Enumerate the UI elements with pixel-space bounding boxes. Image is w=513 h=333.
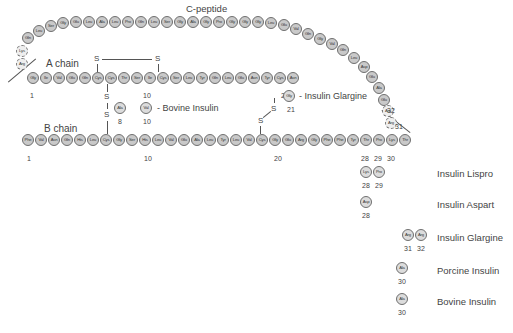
b-chain-position-number: 10: [144, 155, 152, 162]
b-chain-position-number: 20: [274, 155, 282, 162]
b-chain-residue: Phe: [334, 134, 346, 146]
a-chain-residue: Asn: [248, 72, 260, 84]
b-chain-position-number: 30: [387, 155, 395, 162]
b-chain-residue: Gly: [308, 134, 320, 146]
c-peptide-residue: Gly: [200, 16, 212, 28]
variant-residue: Val: [140, 102, 152, 114]
c-peptide-residue: Ser: [161, 16, 173, 28]
a-chain-residue: Gln: [79, 72, 91, 84]
b-chain-residue: Val: [165, 134, 177, 146]
b-chain-residue: Pro: [373, 134, 385, 146]
variant-residue: Arg: [415, 229, 427, 241]
c-peptide-residue: Leu: [33, 25, 45, 37]
a-chain-residue: Leu: [222, 72, 234, 84]
a-chain-residue: Cys: [105, 72, 117, 84]
c-peptide-residue: Gln: [337, 44, 349, 56]
b-chain-residue: Leu: [152, 134, 164, 146]
c-peptide-residue: Val: [290, 23, 302, 35]
b-chain-residue: Lys: [386, 134, 398, 146]
b-chain-residue: Thr: [360, 134, 372, 146]
c-peptide-residue: Leu: [109, 16, 121, 28]
a-chain-residue: Tyr: [196, 72, 208, 84]
a-chain-residue: Ile: [40, 72, 52, 84]
variant-name-label: Insulin Lispro: [437, 168, 493, 179]
a-chain-residue: Ser: [131, 72, 143, 84]
disulfide-bridge-intra-a: [102, 59, 152, 60]
variant-position-number: 10: [143, 118, 151, 125]
a-chain-position-number: 10: [143, 92, 151, 99]
a-chain-residue: Cys: [157, 72, 169, 84]
b-chain-residue: His: [74, 134, 86, 146]
a-chain-residue: Thr: [118, 72, 130, 84]
c-peptide-residue: Ser: [45, 20, 57, 32]
b-chain-residue: Val: [243, 134, 255, 146]
variant-residue: Gly: [283, 90, 295, 102]
a-chain-residue: Gln: [209, 72, 221, 84]
variant-position-number: 28: [362, 182, 370, 189]
bond-b7: [107, 121, 108, 134]
variant-residue: Lys: [360, 166, 372, 178]
bond-a20: [274, 98, 275, 103]
a-chain-residue: Cys: [274, 72, 286, 84]
b-chain-residue: Glu: [282, 134, 294, 146]
a-chain-residue: Val: [53, 72, 65, 84]
b-chain-residue: Gly: [269, 134, 281, 146]
b-chain-residue: Ser: [126, 134, 138, 146]
c-peptide-position-number: 31: [395, 123, 403, 130]
disulfide-s-b7: S: [104, 110, 109, 119]
c-peptide-residue: Gly: [226, 16, 238, 28]
variant-name-label: Insulin Aspart: [437, 199, 494, 210]
c-peptide-residue: Gln: [22, 32, 34, 44]
a-chain-residue: Glu: [66, 72, 78, 84]
variant-position-number: 30: [398, 278, 406, 285]
variant-residue: Ala: [114, 102, 126, 114]
a-chain-residue: Cys: [92, 72, 104, 84]
a-chain-residue: Asn: [287, 72, 299, 84]
insulin-structure-diagram: C-peptide A chain B chain - Bovine Insul…: [0, 0, 513, 333]
variant-position-number: 29: [375, 182, 383, 189]
b-chain-residue: Tyr: [217, 134, 229, 146]
b-chain-residue: Cys: [100, 134, 112, 146]
c-peptide-residue: Gly: [174, 16, 186, 28]
b-chain-residue: Gly: [113, 134, 125, 146]
a-chain-residue: Tyr: [261, 72, 273, 84]
c-peptide-position-number: 32: [387, 107, 395, 114]
glargine-inline-label: - Insulin Glargine: [299, 91, 367, 101]
c-peptide-residue: Leu: [348, 52, 360, 64]
c-peptide-residue: Gln: [302, 28, 314, 40]
c-peptide-residue: Gly: [239, 16, 251, 28]
c-peptide-residue: Lys: [16, 45, 28, 57]
b-chain-position-number: 1: [27, 155, 31, 162]
c-peptide-residue: Glu: [278, 19, 290, 31]
variant-position-number: 8: [118, 118, 122, 125]
a-chain-residue: Ile: [144, 72, 156, 84]
c-peptide-residue: Gly: [57, 17, 69, 29]
a-chain-residue: Ser: [170, 72, 182, 84]
c-peptide-residue: Leu: [265, 17, 277, 29]
b-chain-label: B chain: [44, 123, 77, 134]
b-chain-residue: Cys: [256, 134, 268, 146]
c-peptide-label: C-peptide: [186, 3, 227, 14]
b-chain-residue: Ala: [191, 134, 203, 146]
a-chain-label: A chain: [46, 58, 79, 69]
disulfide-s-a11: S: [155, 54, 160, 63]
b-chain-position-number: 29: [374, 155, 382, 162]
variant-position-number: 21: [287, 106, 295, 113]
b-chain-residue: Gln: [61, 134, 73, 146]
variant-position-number: 28: [362, 212, 370, 219]
b-chain-residue: Leu: [204, 134, 216, 146]
b-chain-residue: Glu: [178, 134, 190, 146]
variant-residue: Asp: [360, 196, 372, 208]
a-chain-residue: Glu: [235, 72, 247, 84]
c-peptide-residue: Pro: [213, 16, 225, 28]
b-chain-residue: Thr: [399, 134, 411, 146]
bond-a6: [97, 64, 98, 72]
variant-residue: Ala: [396, 293, 408, 305]
c-peptide-residue: Gly: [252, 16, 264, 28]
variant-name-label: Bovine Insulin: [437, 296, 496, 307]
a-chain-residue: Gly: [27, 72, 39, 84]
variant-residue: Pro: [373, 166, 385, 178]
a-chain-residue: Leu: [183, 72, 195, 84]
b-chain-residue: Leu: [230, 134, 242, 146]
c-peptide-residue: Glu: [366, 71, 378, 83]
